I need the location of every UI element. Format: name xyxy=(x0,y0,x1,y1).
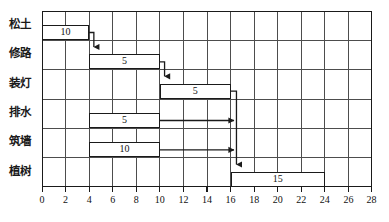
x-tick-label: 18 xyxy=(249,195,259,205)
gantt-bar-zhishu[interactable]: 15 xyxy=(231,172,325,187)
x-tick-label: 12 xyxy=(178,195,188,205)
gantt-bar-zhuangdeng[interactable]: 5 xyxy=(160,84,231,99)
x-tick-label: 4 xyxy=(87,195,92,205)
gantt-bar-zhuqiang[interactable]: 10 xyxy=(89,142,160,157)
row-label-paishui: 排水 xyxy=(0,107,40,119)
row-label-songtu: 松土 xyxy=(0,19,40,31)
x-tick-label: 16 xyxy=(226,195,236,205)
gantt-chart: 松土 修路 装灯 排水 筑墙 植树 xyxy=(0,0,389,222)
x-tick-label: 24 xyxy=(320,195,330,205)
gantt-bar-paishui[interactable]: 5 xyxy=(89,113,160,128)
x-tick-label: 6 xyxy=(110,195,115,205)
row-label-zhuqiang: 筑墙 xyxy=(0,136,40,148)
x-tick-label: 2 xyxy=(63,195,68,205)
gantt-bar-label: 15 xyxy=(273,174,283,184)
gantt-bar-label: 5 xyxy=(122,56,127,66)
gantt-bar-xiulu[interactable]: 5 xyxy=(89,54,160,69)
x-tick-label: 10 xyxy=(155,195,165,205)
row-label-xiulu: 修路 xyxy=(0,48,40,60)
gantt-bar-songtu[interactable]: 10 xyxy=(42,25,89,40)
gantt-bar-label: 5 xyxy=(193,86,198,96)
x-tick-label: 20 xyxy=(273,195,283,205)
grid-and-arrows xyxy=(42,11,372,187)
x-tick-label: 22 xyxy=(296,195,306,205)
x-tick-label: 0 xyxy=(40,195,45,205)
gantt-bar-label: 10 xyxy=(61,27,71,37)
x-tick-label: 14 xyxy=(202,195,212,205)
x-axis: 0 2 4 6 8 10 12 14 16 18 20 22 24 26 28 xyxy=(42,187,372,217)
plot-area: 10 5 5 5 10 15 xyxy=(42,11,372,187)
x-tick-label: 8 xyxy=(134,195,139,205)
row-label-zhuangdeng: 装灯 xyxy=(0,78,40,90)
x-tick-label: 28 xyxy=(367,195,377,205)
x-tick-label: 26 xyxy=(343,195,353,205)
gantt-bar-label: 5 xyxy=(122,115,127,125)
row-label-zhishu: 植树 xyxy=(0,166,40,178)
gantt-bar-label: 10 xyxy=(119,144,129,154)
